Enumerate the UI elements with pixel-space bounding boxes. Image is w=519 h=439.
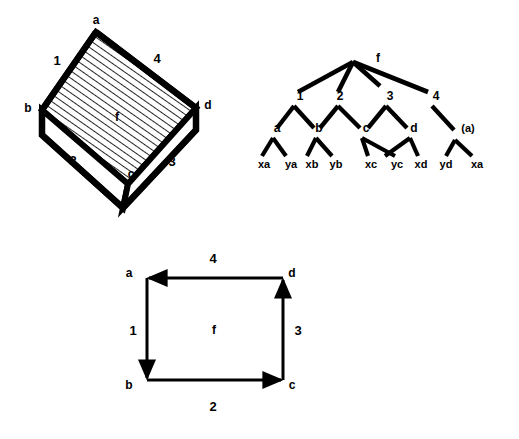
tree-edge-1-b [294, 106, 314, 128]
tree-edge-a-xa [262, 138, 273, 156]
tree-leaf-label-xb: xb [306, 159, 319, 170]
block-vertex-label-c: c [128, 168, 135, 180]
tree-edge-root-4 [353, 62, 428, 92]
tree-leaf-label-yc: yc [391, 159, 403, 170]
tree-diagram: f 1 2 3 4 a b c d (a) xa ya xb yb xc yc … [250, 40, 519, 180]
tree-leaf-label-ya: ya [285, 159, 297, 170]
square-corner-label-a: a [126, 267, 133, 279]
square-corner-label-c: c [289, 379, 296, 391]
tree-edge-b-xb [307, 138, 316, 156]
figure-canvas: a b c d 1 2 3 4 f [0, 0, 519, 439]
tree-node-label-f: f [376, 52, 380, 64]
tree-node-label-a-paren: (a) [461, 123, 474, 134]
tree-leaf-label-yb: yb [330, 159, 343, 170]
square-edge-label-2: 2 [209, 400, 216, 413]
tree-node-label-1: 1 [297, 90, 304, 102]
tree-leaf-label-xc: xc [365, 159, 377, 170]
block-edge-label-1: 1 [53, 54, 60, 67]
tree-node-label-c: c [363, 122, 370, 134]
tree-leaf-label-yd: yd [440, 159, 453, 170]
tree-edge-a2-xa [455, 140, 472, 156]
tree-node-label-a: a [274, 122, 281, 134]
tree-edge-2-c [338, 106, 360, 128]
tree-edge-d-xd [410, 138, 418, 156]
block-vertex-label-d: d [204, 99, 211, 111]
tree-edge-3-d [386, 106, 407, 128]
block-edge-label-3: 3 [168, 155, 175, 168]
tree-edge-4-a2 [432, 106, 454, 130]
block-vertex-label-a: a [93, 14, 100, 26]
tree-node-label-3: 3 [387, 90, 394, 102]
tree-edge-b-yb [316, 138, 332, 156]
square-edge-label-1: 1 [129, 324, 136, 337]
tree-edge-a2-yd [446, 140, 455, 156]
square-corner-label-b: b [125, 379, 132, 391]
square-corner-label-d: d [288, 267, 295, 279]
tree-edge-2-b [320, 106, 338, 128]
tree-edge-a-ya [273, 138, 286, 156]
square-face-label-f: f [212, 324, 216, 336]
square-diagram: a d b c 1 2 3 4 f [100, 240, 330, 420]
tree-node-label-d: d [410, 122, 417, 134]
tree-leaf-label-xd: xd [415, 159, 428, 170]
tree-node-label-2: 2 [337, 90, 344, 102]
block-edge-label-2: 2 [69, 154, 76, 167]
block-edge-label-4: 4 [153, 52, 160, 65]
block-diagram-svg [0, 0, 260, 230]
tree-edge-d-yd [385, 138, 410, 156]
tree-edge-3-c [368, 106, 386, 128]
tree-node-label-4: 4 [433, 90, 440, 102]
square-edge-label-3: 3 [294, 324, 301, 337]
tree-leaf-label-xa-1: xa [258, 159, 270, 170]
tree-node-label-b: b [315, 122, 322, 134]
block-face-label-f: f [115, 111, 119, 123]
block-vertex-label-b: b [24, 102, 31, 114]
tree-leaf-label-xa-2: xa [471, 159, 483, 170]
block-diagram: a b c d 1 2 3 4 f [0, 0, 260, 230]
square-edge-label-4: 4 [209, 252, 216, 265]
